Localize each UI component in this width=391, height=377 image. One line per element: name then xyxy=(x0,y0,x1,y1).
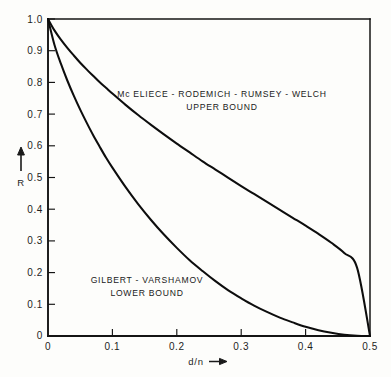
y-tick-label: 0.1 xyxy=(27,299,43,310)
y-axis-title: R xyxy=(17,177,25,188)
right-arrow-icon xyxy=(220,358,228,364)
upper-bound-label-line1: Mc ELIECE - RODEMICH - RUMSEY - WELCH xyxy=(117,89,327,99)
lower-bound-label-line1: GILBERT - VARSHAMOV xyxy=(91,275,204,285)
y-tick-label: 0.5 xyxy=(27,172,43,183)
chart-page: 1.0 0.9 0.8 0.7 0.6 0.5 0.4 0.3 0.2 0.1 … xyxy=(0,0,391,377)
y-tick-label: 0.9 xyxy=(27,45,43,56)
y-tick-label: 0.8 xyxy=(27,77,43,88)
lower-bound-label-line2: LOWER BOUND xyxy=(110,288,183,298)
y-axis-ticks xyxy=(48,19,55,304)
x-axis-ticks xyxy=(112,329,305,336)
x-tick-label: 0.4 xyxy=(298,341,314,352)
x-tick-label: 0 xyxy=(45,341,51,352)
x-axis-title: d/n xyxy=(188,356,204,367)
y-axis-title-group: R xyxy=(17,147,25,188)
bounds-chart: 1.0 0.9 0.8 0.7 0.6 0.5 0.4 0.3 0.2 0.1 … xyxy=(0,0,391,377)
up-arrow-icon xyxy=(18,147,25,155)
x-tick-label: 0.2 xyxy=(169,341,185,352)
y-tick-label: 0.4 xyxy=(27,204,43,215)
y-tick-label: 0.2 xyxy=(27,267,43,278)
y-tick-label: 0.7 xyxy=(27,109,43,120)
x-tick-label: 0.5 xyxy=(362,341,378,352)
x-axis-tick-labels: 0 0.1 0.2 0.3 0.4 0.5 xyxy=(45,341,378,352)
plot-frame xyxy=(48,19,370,336)
x-tick-label: 0.3 xyxy=(233,341,249,352)
curve-gilbert-varshamov-lower-bound xyxy=(48,19,370,336)
upper-bound-label-line2: UPPER BOUND xyxy=(186,102,257,112)
y-tick-label: 1.0 xyxy=(27,14,43,25)
upper-bound-annotation: Mc ELIECE - RODEMICH - RUMSEY - WELCH UP… xyxy=(117,89,327,112)
y-axis-tick-labels: 1.0 0.9 0.8 0.7 0.6 0.5 0.4 0.3 0.2 0.1 … xyxy=(27,14,43,341)
x-tick-label: 0.1 xyxy=(105,341,121,352)
y-tick-label-zero: 0 xyxy=(37,330,43,341)
y-tick-label: 0.3 xyxy=(27,235,43,246)
lower-bound-annotation: GILBERT - VARSHAMOV LOWER BOUND xyxy=(91,275,204,298)
x-axis-title-group: d/n xyxy=(188,356,227,367)
curve-mrrw-upper-bound xyxy=(48,19,370,336)
y-tick-label: 0.6 xyxy=(27,140,43,151)
